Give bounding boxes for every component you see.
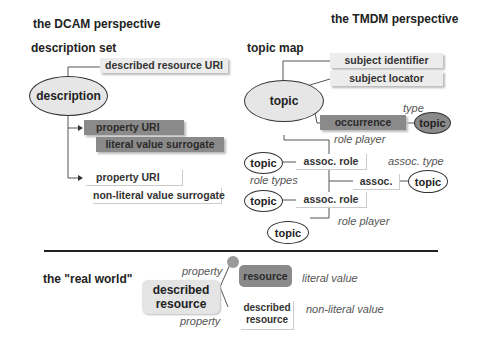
assoc-role-box-1: assoc. role bbox=[296, 154, 367, 170]
topic-map-title: topic map bbox=[247, 41, 304, 55]
topic-role2-ellipse: topic bbox=[244, 190, 283, 212]
topic-role1-ellipse: topic bbox=[244, 152, 283, 174]
subject-identifier-box: subject identifier bbox=[330, 53, 443, 68]
role-types-label: role types bbox=[250, 174, 298, 186]
property-uri-box-1: property URI bbox=[84, 120, 184, 135]
literal-dot-icon bbox=[227, 256, 239, 268]
topic-main-ellipse: topic bbox=[244, 80, 324, 122]
resource-box: resource bbox=[239, 265, 292, 287]
described-resource-box: described resource bbox=[142, 280, 220, 314]
tmdm-heading: the TMDM perspective bbox=[331, 12, 458, 26]
property-top-label: property bbox=[182, 265, 222, 277]
topic-assoc-type-ellipse: topic bbox=[408, 170, 448, 193]
described-resource-uri-box: described resource URI bbox=[100, 58, 228, 73]
description-set-title: description set bbox=[31, 41, 116, 55]
assoc-type-label: assoc. type bbox=[388, 155, 444, 167]
assoc-role-box-2: assoc. role bbox=[296, 192, 367, 208]
role-player-label-2: role player bbox=[338, 215, 389, 227]
non-literal-value-surrogate-box: non-literal value surrogate bbox=[93, 188, 222, 204]
non-literal-value-label: non-literal value bbox=[306, 303, 384, 315]
occurrence-box: occurrence bbox=[320, 115, 406, 130]
role-player-label-1: role player bbox=[334, 133, 385, 145]
real-world-heading: the "real world" bbox=[43, 272, 132, 286]
assoc-box: assoc. bbox=[353, 174, 400, 190]
property-uri-box-2: property URI bbox=[86, 170, 183, 186]
type-label: type bbox=[403, 102, 424, 114]
subject-locator-box: subject locator bbox=[330, 71, 443, 86]
topic-type-ellipse: topic bbox=[414, 112, 451, 134]
description-ellipse: description bbox=[29, 76, 108, 116]
literal-value-surrogate-box: literal value surrogate bbox=[96, 137, 224, 152]
property-bottom-label: property bbox=[180, 315, 220, 327]
literal-value-label: literal value bbox=[302, 272, 358, 284]
topic-player-ellipse: topic bbox=[267, 221, 309, 244]
dcam-heading: the DCAM perspective bbox=[33, 17, 160, 31]
described-resource-2-box: described resource bbox=[241, 301, 294, 330]
